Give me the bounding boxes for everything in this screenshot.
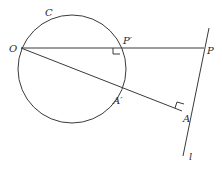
label-a-prime: A′ [112, 95, 123, 106]
segment-oa [21, 48, 182, 111]
label-p: P [206, 45, 214, 56]
circle-c [18, 15, 126, 123]
label-p-prime: P′ [122, 35, 133, 46]
inversion-diagram: C O P′ P A′ A l [0, 0, 222, 169]
label-c: C [45, 7, 53, 18]
line-l [183, 28, 209, 156]
label-o: O [9, 43, 17, 54]
label-l: l [189, 151, 192, 162]
right-angle-marker-a [175, 102, 184, 108]
right-angle-marker-p-prime [113, 48, 120, 54]
label-a: A [182, 113, 190, 124]
